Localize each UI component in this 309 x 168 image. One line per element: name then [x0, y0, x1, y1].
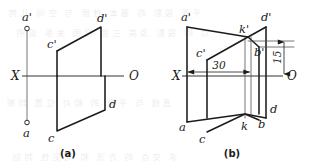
- panel-b-dimension-text-30: 30: [212, 59, 226, 71]
- panel-b-label-d-prime: d': [261, 10, 272, 24]
- panel-b-label-c-prime: c': [196, 46, 206, 60]
- panel-b-axis-label-o: O: [287, 69, 297, 83]
- figure-container: 平面 投影 的 基本 性质 与 空间 几何 点 的 投影 及其 三面 视图 关系…: [0, 0, 309, 168]
- panel-a-a-point-marker: [25, 120, 30, 125]
- panel-a-label-d-prime: d': [97, 11, 108, 25]
- panel-b-caption: (b): [224, 148, 240, 159]
- panel-a-label-d: d: [109, 97, 116, 111]
- panel-b-label-a: a: [179, 120, 186, 134]
- panel-a-caption: (a): [60, 148, 76, 159]
- panel-a-horizontal-projection-lower-edges: [57, 76, 105, 131]
- panel-b: X O 15: [171, 10, 297, 159]
- panel-b-axis-label-x: X: [171, 69, 181, 83]
- panel-a-label-c: c: [48, 131, 55, 145]
- panel-b-dimension-text-15: 15: [271, 50, 283, 64]
- technical-drawing-canvas: X O a' c' d' a c d (a) X: [0, 0, 309, 168]
- panel-b-frontal-upper-edge-a-prime-to-d-prime: [187, 27, 266, 37]
- panel-b-label-k-prime: k': [239, 22, 249, 36]
- panel-a-label-c-prime: c': [47, 37, 57, 51]
- panel-a-frontal-projection-upper-edges: [57, 27, 101, 76]
- panel-a-label-a-prime: a': [22, 10, 32, 24]
- panel-a-a-prime-point-marker: [25, 26, 30, 31]
- panel-b-label-b-prime: b': [254, 45, 265, 59]
- panel-a-label-a: a: [23, 126, 30, 140]
- panel-b-label-a-prime: a': [181, 10, 191, 24]
- panel-a: X O a' c' d' a c d (a): [10, 10, 139, 159]
- panel-a-axis-label-x: X: [10, 69, 20, 83]
- panel-b-label-b: b: [258, 117, 265, 131]
- panel-b-label-c: c: [199, 132, 206, 146]
- panel-b-label-k: k: [241, 119, 248, 133]
- panel-b-inner-plane-edge-c-prime-to-k-prime: [207, 37, 248, 60]
- panel-b-label-d: d: [270, 102, 277, 116]
- panel-a-axis-label-o: O: [129, 69, 139, 83]
